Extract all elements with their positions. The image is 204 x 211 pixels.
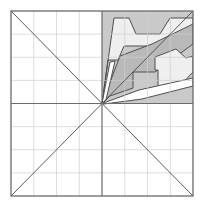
figure-root: A square divided by an eight-by-eight li… — [0, 0, 204, 211]
geometric-diagram — [0, 0, 204, 211]
